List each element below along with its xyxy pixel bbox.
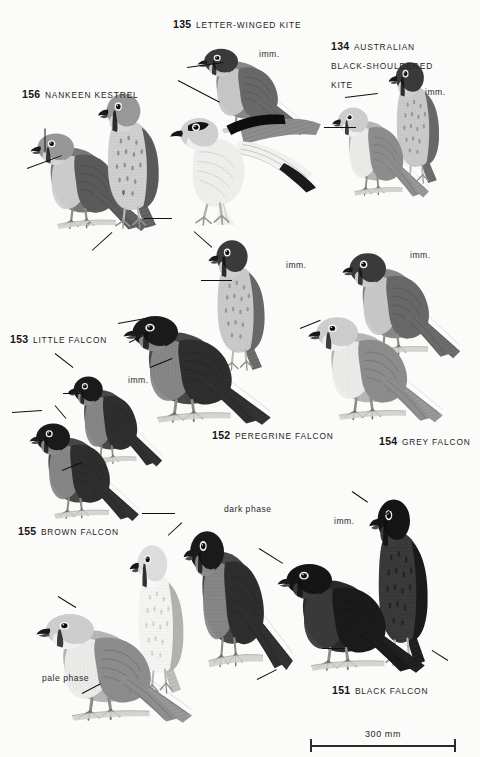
annotation-imm-grey-falcon: imm.	[410, 250, 431, 260]
bird-letter-winged-kite-adult	[164, 70, 324, 225]
annotation-dark-phase-brown-falcon: dark phase	[224, 504, 272, 514]
species-caption-brown-falcon: 155 BROWN FALCON	[18, 521, 119, 540]
species-caption-letter-winged-kite: 135 LETTER-WINGED KITE	[173, 14, 301, 33]
female-symbol-kestrel: ♀	[120, 188, 127, 198]
species-caption-black-falcon: 151 BLACK FALCON	[332, 680, 428, 699]
bird-black-shouldered-kite-adult	[322, 86, 437, 206]
bird-little-falcon-adult	[18, 400, 148, 530]
leader-bsk-wingpatch	[324, 127, 356, 128]
species-number: 134	[331, 40, 349, 52]
annotation-imm-little-falcon: imm.	[128, 375, 149, 385]
species-number: 135	[173, 18, 191, 30]
bird-grey-falcon-adult	[294, 292, 454, 432]
species-number: 156	[22, 88, 40, 100]
species-caption-australian-black-shouldered-kite: 134 AUSTRALIAN BLACK-SHOULDERED KITE	[331, 36, 449, 93]
species-name: LETTER-WINGED KITE	[196, 20, 302, 30]
species-number: 155	[18, 525, 36, 537]
leader-little-breast	[63, 393, 86, 394]
species-caption-grey-falcon: 154 GREY FALCON	[379, 431, 471, 450]
scale-bar-tick-right	[454, 739, 456, 752]
annotation-pale-phase-brown-falcon: pale phase	[42, 673, 89, 683]
species-name: LITTLE FALCON	[33, 335, 107, 345]
annotation-imm-black-falcon: imm.	[334, 516, 355, 526]
species-caption-peregrine-falcon: 152 PEREGRINE FALCON	[212, 425, 334, 444]
species-name: NANKEEN KESTREL	[45, 90, 139, 100]
species-name: GREY FALCON	[402, 437, 471, 447]
leader-kestrel-crown	[45, 129, 46, 153]
species-number: 154	[379, 435, 397, 447]
field-guide-plate: 156 NANKEEN KESTREL135 LETTER-WINGED KIT…	[0, 0, 480, 757]
species-number: 153	[10, 333, 28, 345]
bird-black-falcon-adult	[262, 538, 437, 683]
annotation-imm-black-shouldered-kite: imm.	[425, 87, 446, 97]
species-caption-little-falcon: 153 LITTLE FALCON	[10, 329, 107, 348]
scale-bar-tick-left	[310, 739, 312, 752]
leader-black-falcon-leg	[322, 648, 345, 649]
leader-peregrine-imm-breast	[201, 280, 232, 281]
male-symbol-kestrel: ♂	[85, 219, 92, 229]
leader-brown-dark-crown	[142, 513, 175, 514]
species-caption-nankeen-kestrel: 156 NANKEEN KESTREL	[22, 84, 139, 103]
annotation-imm-peregrine-falcon: imm.	[286, 260, 307, 270]
scale-bar-line	[310, 745, 456, 747]
species-name: BROWN FALCON	[41, 527, 119, 537]
bird-brown-falcon-pale-phase	[20, 588, 205, 733]
species-name: BLACK FALCON	[355, 686, 429, 696]
scale-bar-label: 300 mm	[310, 729, 456, 739]
annotation-imm-letter-winged-kite: imm.	[259, 49, 280, 59]
species-number: 152	[212, 429, 230, 441]
species-number: 151	[332, 684, 350, 696]
leader-kestrel-tail	[144, 218, 172, 219]
species-name: PEREGRINE FALCON	[235, 431, 334, 441]
